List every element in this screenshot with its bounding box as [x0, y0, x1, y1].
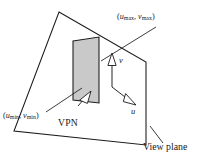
- label-max-close: ): [152, 12, 155, 21]
- label-view-plane: View plane: [143, 142, 187, 152]
- axis-v-arrowhead-icon: [108, 53, 116, 66]
- label-min-v-sub: min: [27, 114, 36, 120]
- axis-u-arrowhead-icon: [123, 94, 136, 105]
- axis-u-shaft: [112, 87, 125, 97]
- label-min-close: ): [36, 111, 39, 120]
- label-min-u-sub: min: [10, 114, 19, 120]
- label-axis-u: u: [131, 107, 135, 116]
- view-window-rect: [73, 37, 99, 103]
- label-vpn: VPN: [58, 118, 78, 128]
- view-plane-diagram: (umax, vmax) (umin, vmin) VPN View plane…: [0, 0, 199, 162]
- label-max-corner: (umax, vmax): [117, 13, 155, 22]
- diagram-canvas: [0, 0, 199, 162]
- leader-line-max-corner: [101, 27, 156, 61]
- label-axis-v: v: [119, 56, 123, 65]
- label-max-u-sub: max: [124, 15, 134, 21]
- label-max-v-sub: max: [142, 15, 152, 21]
- label-min-corner: (umin, vmin): [3, 112, 39, 121]
